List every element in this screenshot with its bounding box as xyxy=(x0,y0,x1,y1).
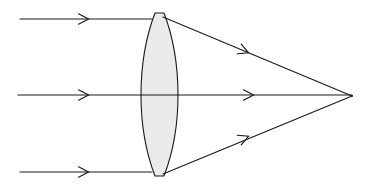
ray-diagram-canvas xyxy=(0,0,371,187)
refracted-ray-top xyxy=(163,17,352,96)
refracted-ray-top-line xyxy=(163,17,352,96)
incoming-ray-bottom xyxy=(20,167,152,177)
optics-ray-diagram xyxy=(0,0,371,187)
incoming-ray-middle xyxy=(18,90,141,100)
incoming-rays-group xyxy=(18,14,152,177)
refracted-ray-bottom xyxy=(163,96,352,174)
refracted-ray-middle xyxy=(178,90,352,100)
focal-point-marker xyxy=(351,95,353,97)
refracted-rays-group xyxy=(163,17,352,174)
focal-point xyxy=(351,95,353,97)
refracted-ray-bottom-line xyxy=(163,96,352,174)
incoming-ray-top xyxy=(20,14,152,24)
